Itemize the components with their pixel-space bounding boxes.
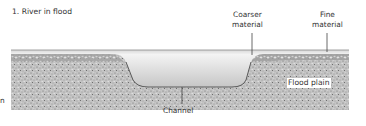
- coarser-material-label: Coarser material: [232, 10, 263, 30]
- cropped-left-label: n: [0, 96, 5, 105]
- river-channel: [114, 54, 263, 87]
- coarser-material-deposit-left: [11, 54, 124, 62]
- channel-label: Channel: [163, 106, 193, 116]
- flood-water-surface: [11, 50, 349, 54]
- flood-plain-label: Flood plain: [287, 78, 331, 88]
- fine-material-label: Fine material: [312, 10, 343, 30]
